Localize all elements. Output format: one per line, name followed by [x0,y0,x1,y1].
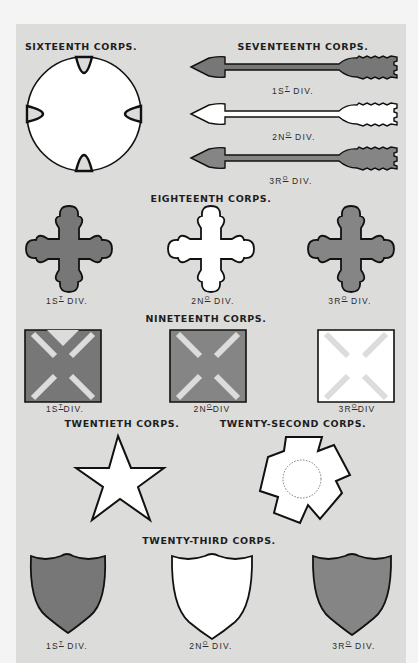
eighteenth-2nd-div-label: 2NO DIV. [191,295,234,306]
twenty-second-corps-badge-icon [258,435,350,523]
nineteenth-corps-title: NINETEENTH CORPS. [145,313,266,324]
twentieth-corps-star-badge-icon [76,434,164,522]
sixteenth-corps-title: SIXTEENTH CORPS. [25,41,137,52]
twenty-third-2nd-div-label: 2NO DIV. [189,640,232,651]
seventeenth-corps-3rd-div-arrow-icon [189,144,401,172]
twenty-second-corps-title: TWENTY-SECOND CORPS. [220,418,367,429]
seventeenth-corps-2nd-div-arrow-icon [189,100,401,128]
eighteenth-corps-1st-div-badge-icon [24,204,114,294]
seventeenth-1st-div-label: 1ST DIV. [272,85,314,96]
nineteenth-corps-3rd-div-badge-icon [318,330,394,402]
nineteenth-2nd-div-label: 2NODIV [194,403,231,414]
sixteenth-corps-badge-icon [24,54,144,174]
seventeenth-corps-1st-div-arrow-icon [189,53,401,81]
nineteenth-corps-1st-div-badge-icon [25,330,101,402]
twenty-third-3rd-div-label: 3RO DIV. [332,640,375,651]
twentieth-corps-title: TWENTIETH CORPS. [64,418,179,429]
twenty-third-corps-title: TWENTY-THIRD CORPS. [142,535,276,546]
twenty-third-1st-div-label: 1ST DIV. [46,640,88,651]
nineteenth-corps-2nd-div-badge-icon [170,330,246,402]
eighteenth-corps-3rd-div-badge-icon [306,204,396,294]
eighteenth-1st-div-label: 1ST DIV. [46,295,88,306]
eighteenth-corps-2nd-div-badge-icon [166,204,256,294]
seventeenth-2nd-div-label: 2NO DIV. [272,131,315,142]
twenty-third-corps-2nd-div-shield-icon [171,552,253,640]
nineteenth-3rd-div-label: 3RODIV [339,403,376,414]
twenty-third-corps-3rd-div-shield-icon [312,552,392,636]
seventeenth-corps-title: SEVENTEENTH CORPS. [238,41,369,52]
nineteenth-1st-div-label: 1STDIV. [46,403,84,414]
eighteenth-3rd-div-label: 3RO DIV. [328,295,371,306]
twenty-third-corps-1st-div-shield-icon [30,552,106,634]
eighteenth-corps-title: EIGHTEENTH CORPS. [151,193,272,204]
seventeenth-3rd-div-label: 3RO DIV. [269,175,312,186]
